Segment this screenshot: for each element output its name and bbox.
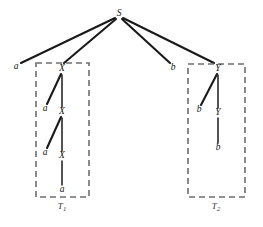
- root-edges: [21, 18, 214, 63]
- subtree-1-caption-subscript: 1: [63, 205, 66, 212]
- subtree-1-edge-x1-a: [47, 74, 61, 104]
- root-edge-to-subtree-1: [64, 19, 116, 63]
- node-subtree-1-x-middle: X: [58, 106, 66, 116]
- node-subtree-1-a-last: a: [60, 184, 65, 194]
- subtree-2-caption-subscript: 2: [217, 205, 221, 212]
- node-subtree-1-x-top: X: [58, 63, 66, 73]
- subtree-2-dashed-box: [188, 64, 245, 197]
- subtree-2-caption: T2: [212, 201, 221, 212]
- node-subtree-2-b-last: b: [216, 142, 221, 152]
- subtree-2-box-group: [188, 64, 245, 197]
- root-edge-to-subtree-2: [123, 18, 214, 63]
- subtree-1-caption: T1: [58, 201, 66, 212]
- parse-tree-diagram: S a b X a X a X a Y b Y b T1 T2: [0, 0, 263, 227]
- subtree-1-edges: [47, 74, 62, 185]
- node-subtree-2-b-first: b: [197, 104, 202, 114]
- root-edge-to-a: [21, 18, 115, 63]
- node-subtree-1-a-second: a: [43, 147, 48, 157]
- root-edge-to-b: [122, 19, 170, 63]
- node-subtree-2-y-bottom: Y: [215, 107, 222, 117]
- node-subtree-1-x-bottom: X: [58, 150, 66, 160]
- node-root-s: S: [117, 8, 122, 18]
- subtree-2-edge-y1-b: [201, 74, 217, 105]
- subtree-1-edge-x2-a: [47, 117, 61, 148]
- node-outer-leaf-a: a: [14, 61, 19, 71]
- node-subtree-1-a-first: a: [43, 103, 48, 113]
- figure-canvas: S a b X a X a X a Y b Y b T1 T2: [0, 0, 263, 227]
- node-outer-leaf-b: b: [171, 62, 176, 72]
